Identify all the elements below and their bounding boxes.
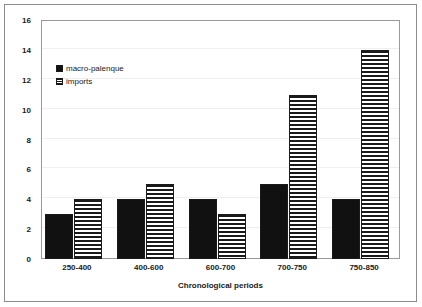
y-axis-tick-label: 0 bbox=[27, 255, 31, 264]
legend-swatch-striped-icon bbox=[56, 78, 63, 85]
x-axis-title: Chronological periods bbox=[41, 281, 400, 290]
bar-macro-palenque bbox=[189, 199, 217, 259]
bar-group bbox=[328, 20, 400, 259]
bar-group bbox=[41, 20, 113, 259]
legend-swatch-solid-icon bbox=[56, 65, 63, 72]
y-axis-tick-label: 12 bbox=[22, 75, 31, 84]
bar-imports bbox=[289, 95, 317, 259]
bars-layer bbox=[41, 20, 400, 259]
chart-legend: macro-palenqueimports bbox=[56, 62, 124, 88]
legend-item-label: imports bbox=[66, 77, 92, 86]
x-axis: 250-400400-600600-700700-750750-850 bbox=[41, 263, 400, 279]
bar-macro-palenque bbox=[117, 199, 145, 259]
y-axis-tick-label: 16 bbox=[22, 16, 31, 25]
y-axis-tick-label: 10 bbox=[22, 105, 31, 114]
bar-macro-palenque bbox=[260, 184, 288, 259]
legend-item: imports bbox=[56, 75, 124, 87]
x-axis-tick-label: 600-700 bbox=[206, 263, 235, 272]
x-axis-tick-label: 400-600 bbox=[134, 263, 163, 272]
bar-group bbox=[113, 20, 185, 259]
bar-macro-palenque bbox=[45, 214, 73, 259]
x-axis-tick-label: 700-750 bbox=[278, 263, 307, 272]
y-axis-tick-label: 6 bbox=[27, 165, 31, 174]
bar-macro-palenque bbox=[332, 199, 360, 259]
y-axis-tick-label: 14 bbox=[22, 45, 31, 54]
legend-item: macro-palenque bbox=[56, 62, 124, 74]
bar-group bbox=[185, 20, 257, 259]
bar-imports bbox=[361, 50, 389, 259]
y-axis: 0246810121416 bbox=[0, 20, 36, 259]
y-axis-tick-label: 8 bbox=[27, 135, 31, 144]
x-axis-tick-label: 250-400 bbox=[62, 263, 91, 272]
y-axis-tick-label: 4 bbox=[27, 195, 31, 204]
legend-item-label: macro-palenque bbox=[66, 64, 124, 73]
x-axis-tick-label: 750-850 bbox=[349, 263, 378, 272]
bar-group bbox=[256, 20, 328, 259]
y-axis-tick-label: 2 bbox=[27, 225, 31, 234]
bar-imports bbox=[218, 214, 246, 259]
bar-imports bbox=[146, 184, 174, 259]
chart-figure: 0246810121416 macro-palenqueimports 250-… bbox=[0, 0, 422, 307]
bar-imports bbox=[74, 199, 102, 259]
